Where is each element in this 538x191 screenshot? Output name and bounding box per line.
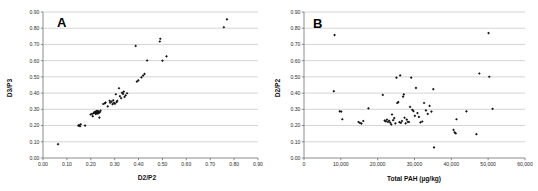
panel-a: 0.000.100.200.300.400.500.600.700.800.90… (0, 0, 269, 191)
data-point (426, 113, 429, 116)
x-tick-label: 0.90 (253, 161, 263, 167)
y-tick-label: 0.20 (29, 122, 39, 128)
x-tick-label: 40,000 (444, 161, 460, 167)
y-tick-label: 0.50 (290, 74, 300, 80)
x-tick-label: 60,000 (517, 161, 533, 167)
x-tick-label: 0.60 (181, 161, 191, 167)
x-axis-title-a: D2/P2 (138, 174, 157, 181)
y-tick-label: 0.80 (290, 25, 300, 31)
y-tick-label: 0.00 (290, 155, 300, 161)
x-tick-label: 0.40 (134, 161, 144, 167)
data-point (84, 124, 87, 127)
data-point (415, 87, 418, 90)
plot-b-ticklabels-x: 010,00020,00030,00040,00050,00060,000 (303, 161, 533, 167)
plot-b-axes (302, 12, 525, 160)
y-tick-label: 0.70 (290, 41, 300, 47)
data-point (381, 94, 384, 97)
data-point (403, 116, 406, 119)
data-point (159, 37, 162, 40)
x-tick-label: 30,000 (407, 161, 423, 167)
panel-b: 0.000.100.200.300.400.500.600.700.800.90… (269, 0, 538, 191)
data-point (333, 34, 336, 37)
y-axis-title-b: D2/P2 (274, 79, 281, 98)
scatter-plot-a: 0.000.100.200.300.400.500.600.700.800.90… (0, 0, 269, 191)
data-point (341, 118, 344, 121)
data-point (404, 122, 407, 125)
data-point (57, 143, 60, 146)
x-tick-label: 0.30 (110, 161, 120, 167)
data-point (362, 120, 365, 123)
data-point (455, 118, 458, 121)
data-point (140, 76, 143, 79)
figure-container: 0.000.100.200.300.400.500.600.700.800.90… (0, 0, 538, 191)
y-tick-label: 0.10 (29, 139, 39, 145)
plot-a-axes (41, 12, 258, 160)
y-tick-label: 0.50 (29, 74, 39, 80)
data-point (491, 107, 494, 110)
x-tick-label: 0.10 (62, 161, 72, 167)
plot-a-points (57, 18, 229, 146)
y-axis-title-a: D3/P3 (6, 79, 13, 98)
plot-a-ticklabels-x: 0.000.100.200.300.400.500.600.700.800.90 (38, 161, 263, 167)
y-tick-label: 0.60 (29, 58, 39, 64)
data-point (126, 92, 129, 95)
data-point (409, 106, 412, 109)
data-point (161, 59, 164, 62)
x-tick-label: 0.20 (86, 161, 96, 167)
y-tick-label: 0.80 (29, 25, 39, 31)
x-tick-label: 20,000 (370, 161, 386, 167)
y-tick-label: 0.30 (290, 106, 300, 112)
x-tick-label: 10,000 (333, 161, 349, 167)
y-tick-label: 0.70 (29, 41, 39, 47)
data-point (118, 87, 121, 90)
y-tick-label: 0.00 (29, 155, 39, 161)
data-point (402, 93, 405, 96)
data-point (394, 122, 397, 125)
data-point (106, 105, 109, 108)
y-tick-label: 0.90 (29, 9, 39, 15)
y-tick-label: 0.40 (29, 90, 39, 96)
data-point (475, 133, 478, 136)
data-point (332, 90, 335, 93)
panel-letter-b: B (313, 16, 322, 31)
y-tick-label: 0.90 (290, 9, 300, 15)
data-point (134, 45, 137, 48)
scatter-plot-b: 0.000.100.200.300.400.500.600.700.800.90… (269, 0, 538, 191)
data-point (478, 72, 481, 75)
x-tick-label: 0.70 (205, 161, 215, 167)
data-point (414, 114, 417, 117)
y-tick-label: 0.30 (29, 106, 39, 112)
data-point (428, 105, 431, 108)
data-point (423, 102, 426, 105)
data-point (98, 116, 101, 119)
x-tick-label: 50,000 (480, 161, 496, 167)
y-tick-label: 0.10 (290, 139, 300, 145)
plot-b-ticklabels-y: 0.000.100.200.300.400.500.600.700.800.90 (290, 9, 300, 161)
data-point (405, 118, 408, 121)
x-tick-label: 0 (303, 161, 306, 167)
y-tick-label: 0.20 (290, 122, 300, 128)
x-tick-label: 0.00 (38, 161, 48, 167)
plot-b-gridlines (304, 12, 525, 142)
data-point (487, 32, 490, 35)
data-point (432, 88, 435, 91)
x-tick-label: 0.80 (229, 161, 239, 167)
data-point (146, 59, 149, 62)
plot-a-ticklabels-y: 0.000.100.200.300.400.500.600.700.800.90 (29, 9, 39, 161)
y-tick-label: 0.60 (290, 58, 300, 64)
data-point (91, 115, 94, 118)
data-point (488, 75, 491, 78)
plot-a-gridlines (43, 12, 258, 142)
data-point (226, 18, 229, 21)
data-point (418, 116, 421, 119)
data-point (165, 55, 168, 58)
x-axis-title-b: Total PAH (µg/kg) (387, 175, 441, 183)
data-point (452, 129, 455, 132)
data-point (416, 112, 419, 115)
data-point (402, 95, 405, 98)
data-point (158, 40, 161, 43)
x-tick-label: 0.50 (157, 161, 167, 167)
data-point (391, 113, 394, 116)
panel-letter-a: A (57, 15, 67, 30)
data-point (430, 110, 433, 113)
